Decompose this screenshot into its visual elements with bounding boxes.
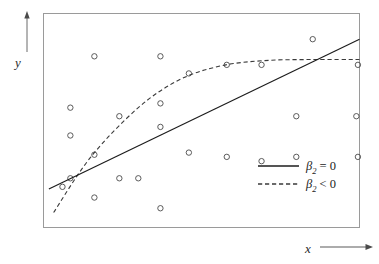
scatter-point [117, 114, 122, 119]
x-axis-arrow-icon [320, 244, 373, 250]
chart-canvas [0, 0, 379, 264]
scatter-point [92, 54, 97, 59]
legend-label-beta2-negative: β2 < 0 [306, 178, 336, 193]
scatter-point [136, 176, 141, 181]
scatter-point [158, 206, 163, 211]
scatter-point [294, 154, 299, 159]
scatter-point [158, 124, 163, 129]
scatter-point [294, 114, 299, 119]
scatter-point [186, 150, 191, 155]
legend-label-beta2-zero: β2 = 0 [306, 160, 336, 175]
scatter-point [68, 133, 73, 138]
scatter-point [224, 154, 229, 159]
scatter-point [117, 176, 122, 181]
scatter-point [60, 184, 65, 189]
scatter-point [259, 158, 264, 163]
scatter-point [310, 36, 315, 41]
scatter-plot-figure: y x β2 = 0 β2 < 0 [0, 0, 379, 264]
scatter-point [186, 71, 191, 76]
x-axis-label: x [305, 242, 311, 255]
scatter-point [92, 195, 97, 200]
scatter-point [354, 114, 359, 119]
scatter-point [158, 54, 163, 59]
scatter-point [259, 62, 264, 67]
y-axis-arrow-icon [24, 11, 29, 52]
scatter-point [158, 101, 163, 106]
scatter-point [68, 105, 73, 110]
y-axis-label: y [15, 56, 21, 69]
plot-frame [44, 14, 360, 228]
